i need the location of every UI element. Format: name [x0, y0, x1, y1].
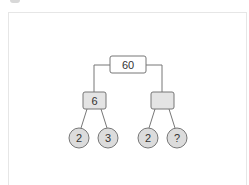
leaf-circle-3-label: 2 [145, 132, 151, 144]
leaf-circle-unknown-label: ? [174, 132, 180, 144]
leaf-circle-unknown[interactable]: ? [167, 128, 187, 148]
leaf-circle-1-label: 2 [76, 132, 82, 144]
factor-tree-diagram: 60 6 2 3 2 ? [0, 0, 249, 185]
factor-box-left-label: 6 [91, 95, 97, 107]
leaf-circle-3: 2 [138, 128, 158, 148]
leaf-connectors [81, 109, 175, 128]
leaf-circle-2-label: 3 [105, 132, 111, 144]
factor-box-right[interactable] [151, 92, 174, 109]
factor-box-left: 6 [83, 92, 106, 109]
leaf-circle-2: 3 [98, 128, 118, 148]
leaf-circle-1: 2 [69, 128, 89, 148]
root-label: 60 [122, 59, 134, 71]
root-node: 60 [110, 56, 146, 73]
